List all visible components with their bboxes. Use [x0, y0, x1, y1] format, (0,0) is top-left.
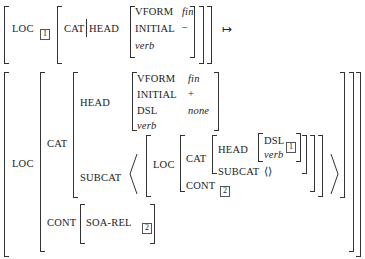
subcat-dsl-tag: 1 [286, 137, 296, 155]
subcat-cont-label: CONT [186, 180, 215, 192]
output-dsl-label: DSL [137, 105, 157, 117]
output-head-type: verb [137, 120, 156, 132]
input-vform-label: VFORM [135, 6, 173, 18]
path-separator [86, 19, 87, 37]
output-cat-label: CAT [47, 138, 67, 150]
input-loc-tag: 1 [40, 24, 50, 42]
input-cat-label: CAT [64, 23, 84, 35]
maps-to-arrow: ↦ [222, 23, 232, 35]
output-initial-value: + [188, 88, 194, 100]
output-cont-label: CONT [47, 217, 76, 229]
subcat-subcat-value: ⟨⟩ [264, 166, 272, 178]
input-loc-label: LOC [12, 23, 34, 35]
input-head-label: HEAD [89, 23, 119, 35]
subcat-loc-right-bracket [310, 135, 315, 192]
output-vform-label: VFORM [137, 73, 175, 85]
output-cat-left-bracket [73, 72, 78, 198]
output-cont-right-bracket [150, 204, 155, 244]
subcat-head-right-bracket [296, 133, 301, 162]
subcat-head-type: verb [264, 149, 283, 161]
subcat-subcat-label: SUBCAT [218, 166, 259, 178]
output-outer-right-bracket [356, 72, 361, 257]
input-inner-right-bracket [199, 6, 204, 64]
input-head-right-bracket [190, 6, 195, 58]
output-cont-left-bracket [80, 204, 85, 244]
output-loc-label: LOC [12, 158, 34, 170]
subcat-cat-right-bracket [302, 135, 307, 174]
output-soa-rel-label: SOA-REL [86, 217, 132, 229]
subcat-dsl-label: DSL [264, 135, 284, 147]
subcat-left-angle-icon [127, 152, 141, 196]
subcat-head-label: HEAD [218, 144, 248, 156]
input-outer-left-bracket [4, 6, 9, 64]
output-outer-left-bracket [4, 72, 9, 257]
subcat-cat-left-bracket [212, 135, 217, 174]
subcat-item-left-bracket [146, 135, 151, 197]
output-head-label: HEAD [80, 97, 110, 109]
input-initial-value: − [182, 22, 188, 34]
output-subcat-label: SUBCAT [80, 172, 121, 184]
subcat-cont-tag: 2 [220, 181, 230, 199]
output-loc-left-bracket [40, 72, 45, 252]
output-loc-right-bracket [349, 72, 354, 252]
subcat-loc-label: LOC [153, 159, 175, 171]
input-outer-right-bracket [207, 6, 212, 64]
output-initial-label: INITIAL [137, 89, 177, 101]
input-head-type: verb [135, 40, 154, 52]
output-vform-value: fin [188, 73, 200, 85]
subcat-loc-left-bracket [180, 135, 185, 192]
input-inner-left-bracket [57, 6, 62, 64]
output-head-right-bracket [214, 72, 219, 131]
output-dsl-value: none [188, 105, 209, 117]
input-initial-label: INITIAL [135, 23, 175, 35]
subcat-cat-label: CAT [186, 153, 206, 165]
subcat-item-right-bracket [318, 135, 323, 197]
subcat-head-left-bracket [258, 133, 263, 162]
output-cat-right-bracket [340, 72, 345, 198]
